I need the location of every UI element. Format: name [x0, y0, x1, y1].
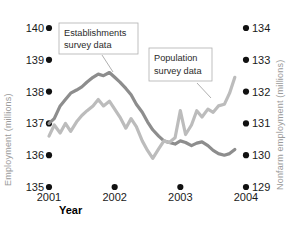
- population-callout-line1: Population: [154, 53, 197, 63]
- left-tick-label: 137: [26, 117, 44, 129]
- left-axis-title: Employment (millions): [3, 93, 13, 186]
- right-tick-dot: [243, 120, 249, 126]
- x-tick-label: 2001: [37, 191, 61, 203]
- establishments-callout: Establishments survey data: [59, 23, 138, 72]
- population-leader-line: [197, 83, 211, 98]
- x-tick-label: 2004: [234, 191, 258, 203]
- right-tick-dot: [243, 184, 249, 190]
- left-tick-dot: [46, 89, 52, 95]
- right-tick-label: 132: [252, 86, 270, 98]
- right-axis-ticks: 129130131132133134: [243, 22, 270, 193]
- chart-canvas: Employment (millions) 135136137138139140…: [0, 0, 289, 229]
- left-tick-label: 139: [26, 54, 44, 66]
- right-tick-label: 134: [252, 22, 270, 34]
- right-tick-dot: [243, 152, 249, 158]
- x-tick-label: 2002: [102, 191, 126, 203]
- right-tick-dot: [243, 89, 249, 95]
- left-tick-label: 136: [26, 149, 44, 161]
- right-tick-dot: [243, 25, 249, 31]
- left-tick-dot: [46, 184, 52, 190]
- left-axis-ticks: 135136137138139140: [26, 22, 52, 193]
- population-callout: Population survey data: [149, 48, 212, 98]
- left-axis-group: Employment (millions) 135136137138139140: [3, 22, 52, 193]
- establishments-leader-line: [102, 55, 113, 72]
- right-axis-title: Nonfarm employment (millions): [275, 60, 285, 190]
- right-tick-label: 130: [252, 149, 270, 161]
- x-tick-dot: [112, 184, 118, 190]
- right-tick-label: 131: [252, 117, 270, 129]
- establishments-callout-line1: Establishments: [64, 28, 127, 38]
- population-callout-line2: survey data: [154, 66, 202, 76]
- right-axis-group: Nonfarm employment (millions) 1291301311…: [243, 22, 285, 193]
- employment-line-chart: Employment (millions) 135136137138139140…: [0, 0, 289, 229]
- left-tick-dot: [46, 152, 52, 158]
- x-tick-dot: [177, 184, 183, 190]
- x-tick-label: 2003: [168, 191, 192, 203]
- right-tick-label: 133: [252, 54, 270, 66]
- series-group: [49, 73, 235, 159]
- left-tick-label: 138: [26, 86, 44, 98]
- right-tick-dot: [243, 57, 249, 63]
- left-tick-dot: [46, 57, 52, 63]
- x-axis-title: Year: [59, 204, 83, 216]
- establishments-callout-line2: survey data: [64, 40, 112, 50]
- left-tick-dot: [46, 25, 52, 31]
- left-tick-label: 140: [26, 22, 44, 34]
- x-axis-ticks: 2001200220032004: [37, 184, 258, 203]
